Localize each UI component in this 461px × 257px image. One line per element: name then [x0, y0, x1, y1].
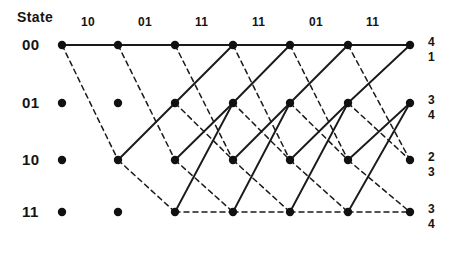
trellis-branch-solid [233, 103, 290, 212]
edge-layer [62, 45, 410, 212]
trellis-branch-dashed [348, 45, 410, 160]
trellis-branch-dashed [118, 45, 175, 160]
trellis-branch-solid [175, 45, 233, 103]
trellis-node [406, 41, 414, 49]
metric-bottom-11: 4 [428, 218, 435, 230]
received-bits-4: 01 [309, 16, 323, 28]
trellis-branch-solid [118, 103, 175, 160]
survivor-metric-01: 34 [428, 94, 435, 121]
trellis-node [58, 208, 66, 216]
received-bits-5: 11 [366, 16, 379, 28]
trellis-branch-dashed [290, 160, 348, 212]
trellis-branch-solid [348, 45, 410, 103]
received-bits-1: 01 [138, 16, 152, 28]
trellis-node [229, 99, 237, 107]
trellis-branch-solid [175, 103, 233, 212]
trellis-branch-solid [348, 103, 410, 212]
state-label-01: 01 [22, 95, 40, 110]
survivor-metric-10: 23 [428, 151, 435, 178]
trellis-node [286, 208, 294, 216]
metric-top-10: 2 [428, 151, 435, 163]
state-label-11: 11 [22, 204, 39, 219]
survivor-metric-00: 41 [428, 36, 435, 63]
trellis-node [406, 156, 414, 164]
state-label-00: 00 [22, 37, 40, 52]
metric-top-11: 3 [428, 203, 435, 215]
trellis-node [58, 41, 66, 49]
trellis-branch-dashed [118, 160, 175, 212]
trellis-node [229, 41, 237, 49]
trellis-node [286, 41, 294, 49]
trellis-node [229, 208, 237, 216]
trellis-node [344, 99, 352, 107]
trellis-branch-dashed [62, 45, 118, 160]
trellis-node [344, 208, 352, 216]
trellis-node [114, 99, 122, 107]
state-column-header: State [17, 10, 53, 24]
trellis-node [171, 41, 179, 49]
trellis-node [114, 156, 122, 164]
metric-bottom-01: 4 [428, 109, 435, 121]
trellis-branch-dashed [233, 160, 290, 212]
survivor-metric-11: 34 [428, 203, 435, 230]
metric-top-00: 4 [428, 36, 435, 48]
trellis-node [344, 156, 352, 164]
trellis-branch-dashed [348, 160, 410, 212]
trellis-node [406, 208, 414, 216]
trellis-branch-dashed [175, 160, 233, 212]
trellis-branch-solid [290, 103, 348, 212]
trellis-node [171, 208, 179, 216]
metric-top-01: 3 [428, 94, 435, 106]
trellis-node [171, 156, 179, 164]
trellis-node [58, 156, 66, 164]
trellis-canvas [0, 0, 461, 257]
trellis-branch-dashed [175, 45, 233, 160]
trellis-node [229, 156, 237, 164]
trellis-branch-solid [290, 45, 348, 103]
metric-bottom-10: 3 [428, 166, 435, 178]
metric-bottom-00: 1 [428, 51, 435, 63]
trellis-branch-solid [233, 45, 290, 103]
trellis-branch-dashed [290, 45, 348, 160]
trellis-node [171, 99, 179, 107]
trellis-node [114, 208, 122, 216]
trellis-figure: State 100111110111 00011011 41342334 [0, 0, 461, 257]
received-bits-2: 11 [195, 16, 208, 28]
trellis-node [406, 99, 414, 107]
received-bits-0: 10 [81, 16, 95, 28]
trellis-node [58, 99, 66, 107]
trellis-branch-dashed [233, 45, 290, 160]
received-bits-3: 11 [252, 16, 265, 28]
trellis-node [286, 99, 294, 107]
trellis-node [114, 41, 122, 49]
trellis-node [344, 41, 352, 49]
trellis-node [286, 156, 294, 164]
state-label-10: 10 [22, 152, 40, 167]
